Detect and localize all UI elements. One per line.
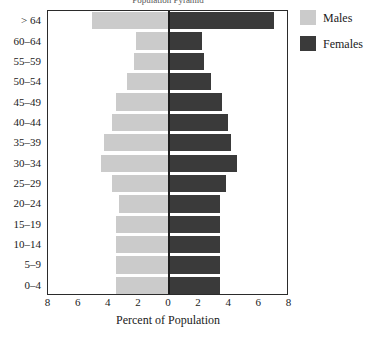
bar-male-0-4	[116, 277, 169, 294]
bar-male-30-34	[101, 155, 169, 172]
bar-male--64	[92, 12, 169, 29]
bar-female--64	[169, 12, 274, 29]
legend-item-females: Females	[300, 36, 376, 51]
chart-legend: MalesFemales	[300, 10, 376, 62]
bar-male-10-14	[116, 236, 169, 253]
bar-male-5-9	[116, 256, 169, 273]
bar-female-5-9	[169, 256, 220, 273]
y-axis-label-50-54: 50–54	[14, 75, 42, 87]
center-axis-line	[168, 11, 170, 294]
bar-male-20-24	[119, 195, 169, 212]
plot-area	[47, 10, 288, 295]
x-axis-ticks: 864202468	[47, 296, 289, 310]
bar-male-35-39	[104, 134, 169, 151]
y-axis-label--64: > 64	[21, 14, 41, 26]
x-axis-tick-1: 6	[75, 296, 81, 309]
y-axis-label-20-24: 20–24	[14, 197, 42, 209]
legend-swatch-females	[300, 36, 316, 51]
bar-male-45-49	[116, 93, 169, 110]
bar-male-55-59	[134, 53, 169, 70]
bar-male-15-19	[116, 216, 169, 233]
x-axis-tick-8: 8	[286, 296, 292, 309]
x-axis-tick-0: 8	[45, 296, 51, 309]
bar-female-0-4	[169, 277, 220, 294]
population-pyramid-chart: Population Pyramid > 6460–6455–5950–5445…	[0, 0, 377, 340]
x-axis-tick-5: 2	[195, 296, 201, 309]
bar-male-25-29	[112, 175, 169, 192]
bar-female-15-19	[169, 216, 220, 233]
y-axis-label-55-59: 55–59	[14, 55, 42, 67]
x-axis-tick-3: 2	[135, 296, 141, 309]
bar-female-60-64	[169, 32, 202, 49]
y-axis-label-40-44: 40–44	[14, 116, 42, 128]
y-axis-label-10-14: 10–14	[14, 238, 42, 250]
bar-male-60-64	[136, 32, 169, 49]
bar-female-30-34	[169, 155, 237, 172]
x-axis-tick-2: 4	[105, 296, 111, 309]
y-axis-label-5-9: 5–9	[25, 258, 42, 270]
y-axis-label-15-19: 15–19	[14, 218, 42, 230]
bar-male-40-44	[112, 114, 169, 131]
legend-label-females: Females	[323, 37, 363, 51]
bar-female-55-59	[169, 53, 204, 70]
bar-female-20-24	[169, 195, 220, 212]
bar-female-45-49	[169, 93, 222, 110]
legend-item-males: Males	[300, 10, 376, 25]
y-axis-label-45-49: 45–49	[14, 96, 42, 108]
bar-female-40-44	[169, 114, 228, 131]
x-axis-tick-4: 0	[165, 296, 171, 309]
y-axis-label-0-4: 0–4	[25, 279, 42, 291]
bar-female-25-29	[169, 175, 226, 192]
chart-title: Population Pyramid	[47, 0, 289, 5]
bar-male-50-54	[127, 73, 169, 90]
x-axis-tick-6: 4	[225, 296, 231, 309]
x-axis-title: Percent of Population	[47, 313, 289, 327]
y-axis-label-25-29: 25–29	[14, 177, 42, 189]
y-axis-label-35-39: 35–39	[14, 136, 42, 148]
y-axis-label-60-64: 60–64	[14, 35, 42, 47]
bar-female-10-14	[169, 236, 220, 253]
legend-swatch-males	[300, 10, 316, 25]
y-axis-labels: > 6460–6455–5950–5445–4940–4435–3930–342…	[0, 10, 44, 295]
y-axis-label-30-34: 30–34	[14, 157, 42, 169]
bar-female-35-39	[169, 134, 231, 151]
legend-label-males: Males	[323, 11, 352, 25]
x-axis-tick-7: 6	[256, 296, 262, 309]
bar-female-50-54	[169, 73, 211, 90]
